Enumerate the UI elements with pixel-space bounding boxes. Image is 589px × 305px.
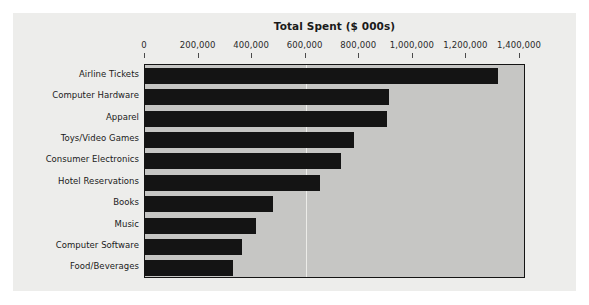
bar-row [145, 153, 524, 169]
plot-inner [145, 65, 524, 277]
bar[interactable] [145, 260, 233, 276]
x-tick-label: 0 [141, 40, 147, 50]
x-axis: 0200,000400,000600,000800,0001,000,0001,… [0, 40, 589, 54]
x-tick-label: 400,000 [233, 40, 269, 50]
bar-row [145, 239, 524, 255]
plot-area [144, 64, 525, 278]
bar-row [145, 89, 524, 105]
category-label: Books [0, 197, 139, 207]
bar-row [145, 175, 524, 191]
bar[interactable] [145, 175, 320, 191]
x-tick-mark [519, 53, 520, 58]
bar[interactable] [145, 218, 256, 234]
x-tick-mark [412, 53, 413, 58]
bar[interactable] [145, 153, 341, 169]
category-label: Computer Software [0, 240, 139, 250]
x-tick-mark [358, 53, 359, 58]
bar[interactable] [145, 68, 498, 84]
bar-row [145, 111, 524, 127]
bar[interactable] [145, 111, 387, 127]
category-label: Consumer Electronics [0, 154, 139, 164]
category-label: Computer Hardware [0, 90, 139, 100]
x-tick-label: 1,400,000 [497, 40, 541, 50]
category-label: Food/Beverages [0, 261, 139, 271]
x-tick-label: 600,000 [287, 40, 323, 50]
bar[interactable] [145, 196, 273, 212]
category-label: Toys/Video Games [0, 133, 139, 143]
x-tick-label: 200,000 [180, 40, 216, 50]
bar[interactable] [145, 132, 354, 148]
x-tick-label: 1,000,000 [390, 40, 434, 50]
bar[interactable] [145, 239, 242, 255]
x-tick-mark [144, 53, 145, 58]
x-tick-mark [305, 53, 306, 58]
y-axis-category-labels: Airline TicketsComputer HardwareApparelT… [0, 64, 139, 277]
category-label: Hotel Reservations [0, 176, 139, 186]
category-label: Music [0, 219, 139, 229]
x-tick-label: 800,000 [340, 40, 376, 50]
bar-row [145, 260, 524, 276]
bar-row [145, 132, 524, 148]
bar[interactable] [145, 89, 389, 105]
x-tick-mark [465, 53, 466, 58]
x-tick-mark [198, 53, 199, 58]
x-tick-label: 1,200,000 [443, 40, 487, 50]
bar-row [145, 218, 524, 234]
chart-title: Total Spent ($ 000s) [144, 20, 525, 32]
category-label: Apparel [0, 112, 139, 122]
category-label: Airline Tickets [0, 69, 139, 79]
bar-row [145, 68, 524, 84]
bar-row [145, 196, 524, 212]
x-tick-mark [251, 53, 252, 58]
